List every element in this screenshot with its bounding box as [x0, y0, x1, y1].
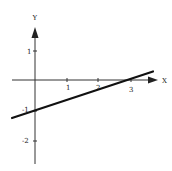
y-axis-arrow-icon [32, 27, 39, 38]
x-axis-arrow-icon [148, 77, 158, 84]
x-tick-label-1: 1 [66, 84, 70, 92]
x-tick-label-3: 3 [129, 86, 133, 94]
y-axis-label: Y [32, 14, 38, 22]
y-tick-label-m2: -2 [22, 137, 29, 145]
line-chart: X Y 1 2 3 1 -1 -2 [0, 0, 172, 171]
y-tick-label-1: 1 [27, 48, 31, 56]
data-line [12, 72, 153, 119]
x-axis-label: X [162, 77, 167, 85]
